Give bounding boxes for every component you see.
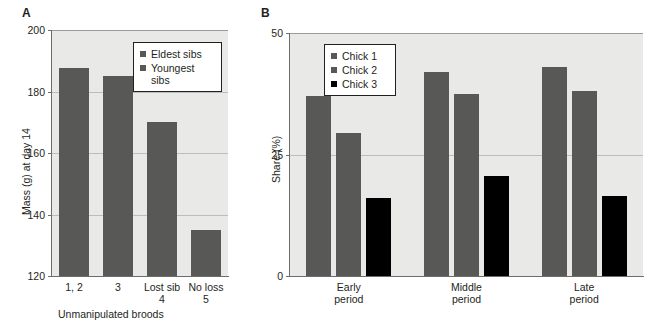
legend-swatch-1 — [331, 53, 337, 59]
panel-b-letter: B — [261, 6, 270, 20]
bar-group-3 — [147, 122, 177, 276]
bar-group-4 — [191, 230, 221, 276]
panel-b-x-axis — [289, 276, 644, 277]
legend-item-3: Chick 3 — [331, 78, 387, 90]
y-tick-140 — [48, 215, 52, 216]
bar-chick-3-group-3 — [602, 196, 627, 276]
panel-a-x-axis — [51, 276, 229, 277]
bar-chick-3-group-2 — [484, 176, 509, 276]
legend-item-2: Youngest sibs — [140, 62, 213, 86]
y-tick-25 — [286, 155, 290, 156]
panel-a-legend: Eldest sibsYoungest sibs — [133, 42, 222, 92]
legend-item-1: Eldest sibs — [140, 48, 213, 60]
panel-b: B 02550 Early periodMiddle periodLate pe… — [252, 0, 653, 328]
bar-chick-2-group-3 — [572, 91, 597, 276]
panel-b-y-axis-title: Share (%) — [270, 136, 282, 183]
x-tick-label-1: Early period — [304, 281, 394, 305]
legend-label-3: Chick 3 — [342, 78, 377, 90]
panel-a: A 120140160180200 1, 23Lost sib 4No loss… — [0, 0, 252, 328]
y-tick-label-0: 0 — [250, 270, 283, 282]
legend-label-1: Chick 1 — [342, 50, 377, 62]
x-tick-label-2: Middle period — [422, 281, 512, 305]
panel-a-y-axis-title: Mass (g) at day 14 — [20, 128, 32, 215]
bar-chick-1-group-3 — [542, 67, 567, 276]
legend-swatch-1 — [140, 51, 146, 57]
bar-group-2 — [103, 76, 133, 276]
panel-a-x-axis-title: Unmanipulated broods — [58, 308, 164, 320]
panel-a-top-rule — [52, 30, 228, 31]
x-tick-label-4: No loss 5 — [161, 281, 251, 305]
figure-two-panel-bar-charts: A 120140160180200 1, 23Lost sib 4No loss… — [0, 0, 653, 328]
bar-chick-1-group-2 — [424, 72, 449, 276]
x-tick-label-3: Late period — [539, 281, 629, 305]
legend-label-2: Chick 2 — [342, 64, 377, 76]
bar-chick-1-group-1 — [306, 96, 331, 276]
y-tick-180 — [48, 92, 52, 93]
y-tick-label-50: 50 — [250, 27, 283, 39]
y-tick-50 — [286, 33, 290, 34]
bar-chick-2-group-2 — [454, 94, 479, 276]
bar-chick-3-group-1 — [366, 198, 391, 276]
legend-item-2: Chick 2 — [331, 64, 387, 76]
bar-group-1 — [59, 68, 89, 276]
legend-swatch-3 — [331, 81, 337, 87]
y-tick-160 — [48, 153, 52, 154]
bar-chick-2-group-1 — [336, 133, 361, 276]
y-tick-label-180: 180 — [12, 86, 45, 98]
y-tick-label-200: 200 — [12, 24, 45, 36]
legend-swatch-2 — [140, 65, 146, 71]
panel-b-top-rule — [290, 33, 643, 34]
legend-swatch-2 — [331, 67, 337, 73]
legend-item-1: Chick 1 — [331, 50, 387, 62]
y-tick-200 — [48, 30, 52, 31]
y-tick-120 — [48, 276, 52, 277]
panel-a-letter: A — [22, 6, 31, 20]
panel-b-legend: Chick 1Chick 2Chick 3 — [324, 44, 396, 96]
y-tick-0 — [286, 276, 290, 277]
legend-label-2: Youngest sibs — [151, 62, 194, 86]
legend-label-1: Eldest sibs — [151, 48, 202, 60]
